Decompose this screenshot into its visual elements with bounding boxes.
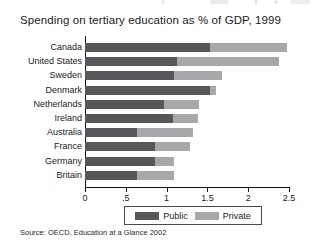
bar-segment-public <box>85 128 137 137</box>
x-axis-tick-mark <box>167 188 168 192</box>
plot-area <box>85 38 289 188</box>
x-axis-tick-mark <box>85 188 86 192</box>
bar-segment-private <box>164 100 199 109</box>
bar-segment-public <box>85 71 174 80</box>
category-label: Denmark <box>45 85 82 95</box>
source-note: Source: OECD, Education at a Glance 2002 <box>20 228 166 237</box>
bar-segment-private <box>210 43 287 52</box>
bar-segment-private <box>137 171 174 180</box>
x-axis-tick-mark <box>126 188 127 192</box>
x-axis-tick-label: 2 <box>246 193 251 203</box>
bar-segment-private <box>174 71 222 80</box>
legend-swatch-private <box>195 212 219 220</box>
x-axis-tick-label: 1.5 <box>201 193 214 203</box>
x-axis-tick-mark <box>289 188 290 192</box>
x-axis-tick-label: 0 <box>82 193 87 203</box>
legend-swatch-public <box>135 212 159 220</box>
category-label: Netherlands <box>33 99 82 109</box>
legend-entry-private: Private <box>195 211 251 221</box>
bar-segment-public <box>85 43 210 52</box>
bar-segment-public <box>85 57 177 66</box>
bar-segment-private <box>173 114 198 123</box>
bar-segment-private <box>210 86 217 95</box>
x-axis-tick-label: 1 <box>164 193 169 203</box>
bar-segment-public <box>85 100 164 109</box>
legend-label-public: Public <box>163 211 188 221</box>
category-label: Ireland <box>54 113 82 123</box>
bar-segment-public <box>85 157 155 166</box>
x-axis-tick-mark <box>248 188 249 192</box>
category-label: Sweden <box>49 70 82 80</box>
category-label: France <box>54 141 82 151</box>
category-label: Germany <box>45 156 82 166</box>
bar-segment-private <box>137 128 192 137</box>
category-label: Australia <box>47 127 82 137</box>
chart-legend: Public Private <box>124 206 262 225</box>
bar-segment-public <box>85 86 210 95</box>
bar-segment-public <box>85 114 173 123</box>
x-axis-tick-label: 2.5 <box>283 193 296 203</box>
y-axis-category-labels: CanadaUnited StatesSwedenDenmarkNetherla… <box>0 38 82 188</box>
scan-edge-artifact <box>150 0 320 4</box>
chart-title: Spending on tertiary education as % of G… <box>20 14 281 26</box>
bar-segment-private <box>155 157 174 166</box>
x-axis-tick-label: .5 <box>122 193 130 203</box>
bar-segment-public <box>85 142 155 151</box>
category-label: United States <box>28 56 82 66</box>
bar-segment-private <box>177 57 279 66</box>
x-axis-tick-mark <box>207 188 208 192</box>
legend-entry-public: Public <box>135 211 188 221</box>
category-label: Britain <box>56 170 82 180</box>
category-label: Canada <box>50 42 82 52</box>
chart-figure: Spending on tertiary education as % of G… <box>0 0 324 248</box>
bar-segment-public <box>85 171 137 180</box>
bar-segment-private <box>155 142 190 151</box>
legend-label-private: Private <box>223 211 251 221</box>
